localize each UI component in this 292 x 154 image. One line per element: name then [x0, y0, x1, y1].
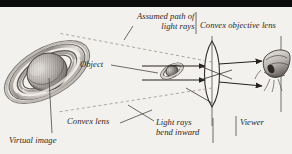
label-assumed-path-line1: Assumed path of [137, 11, 195, 21]
label-light-rays-line1: Light rays [156, 117, 192, 127]
label-convex-lens: Convex lens [67, 117, 109, 127]
label-light-rays-line2: bend inward [156, 127, 199, 137]
object-planet [158, 59, 186, 82]
objective-lens [205, 36, 220, 126]
label-virtual-image: Virtual image [9, 136, 57, 146]
label-assumed-path-line2: light rays [161, 21, 194, 31]
optics-diagram-figure: Assumed path of light rays Convex object… [0, 0, 292, 154]
label-light-rays-bend-inward: Light rays bend inward [156, 118, 199, 137]
label-object: Object [80, 60, 103, 70]
light-ray-arrows [142, 61, 262, 86]
label-viewer: Viewer [240, 118, 264, 128]
label-convex-objective-lens: Convex objective lens [200, 21, 276, 31]
label-assumed-path: Assumed path of light rays [137, 12, 195, 31]
virtual-image-planet [0, 28, 100, 117]
